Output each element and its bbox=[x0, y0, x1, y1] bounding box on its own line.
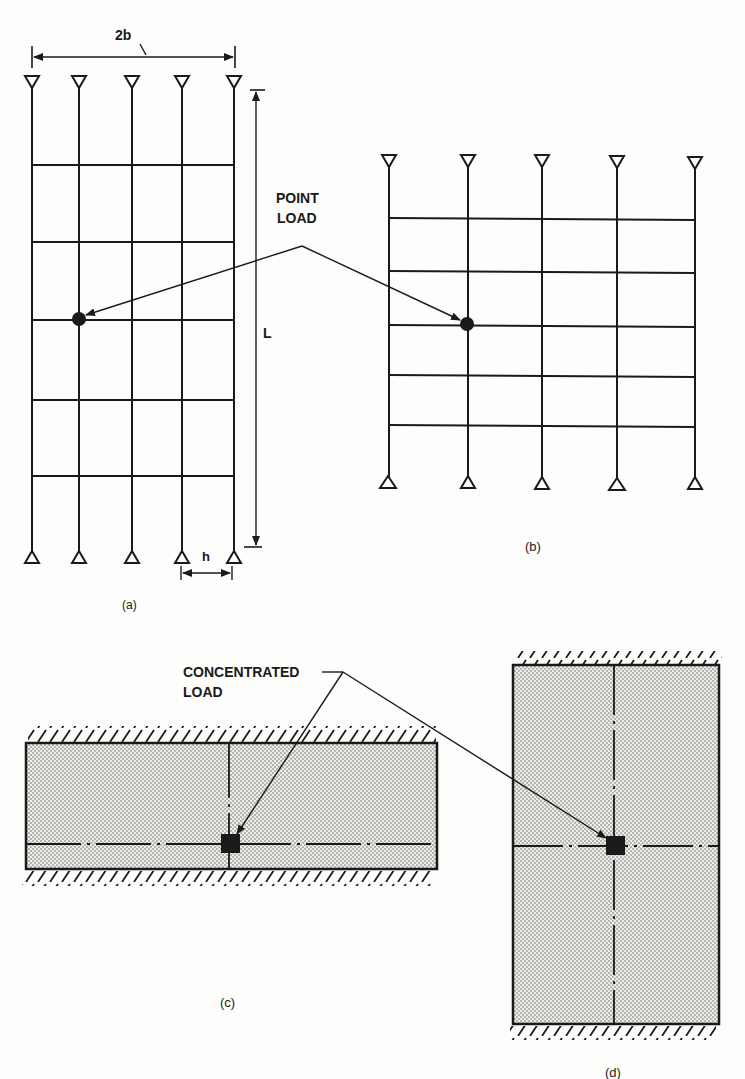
concentrated-load-d bbox=[606, 836, 625, 855]
panel-d-plate-diagram bbox=[510, 651, 722, 1040]
panel-b-columns bbox=[389, 167, 695, 478]
panel-b-top-supports bbox=[382, 155, 702, 169]
concentrated-load-c bbox=[221, 834, 240, 853]
dimension-L bbox=[244, 90, 265, 547]
dimension-2b bbox=[32, 44, 235, 68]
panel-c-plate-diagram bbox=[22, 726, 437, 886]
panel-b-frame-diagram bbox=[380, 155, 702, 490]
hatch-top-d bbox=[516, 651, 722, 665]
hatch-top-c bbox=[28, 726, 436, 742]
panel-a-frame-diagram bbox=[25, 44, 265, 580]
hatch-bottom-d bbox=[510, 1026, 716, 1040]
point-load-leaders bbox=[86, 246, 460, 320]
panel-b-bottom-supports bbox=[380, 476, 702, 490]
figure-canvas bbox=[0, 0, 745, 1079]
point-load-node-b bbox=[460, 317, 474, 331]
panel-a-bottom-supports bbox=[25, 551, 241, 563]
dimension-h bbox=[181, 566, 232, 580]
point-load-node-a bbox=[72, 312, 86, 326]
hatch-bottom-c bbox=[22, 871, 432, 886]
panel-a-top-supports bbox=[25, 76, 241, 88]
